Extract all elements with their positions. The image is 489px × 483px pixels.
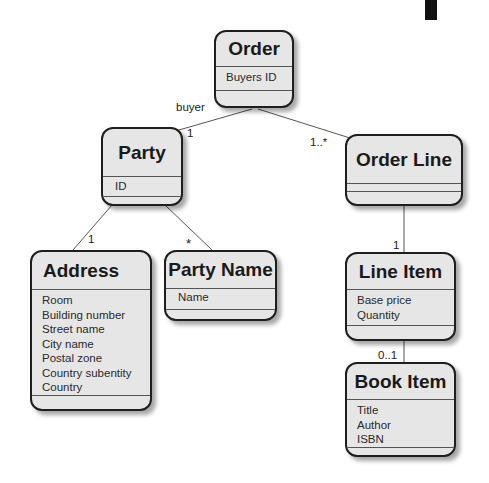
multiplicity-orderline-lineitem: 1 bbox=[393, 239, 399, 251]
operations-compartment bbox=[166, 310, 275, 321]
multiplicity-party-partyname: * bbox=[186, 236, 191, 251]
attribute-list bbox=[347, 184, 461, 192]
class-address[interactable]: Address Room Building number Street name… bbox=[30, 250, 152, 411]
attribute: Street name bbox=[42, 322, 150, 337]
class-order-line[interactable]: Order Line bbox=[345, 134, 463, 206]
attribute: Country bbox=[42, 380, 150, 395]
operations-compartment bbox=[347, 448, 454, 457]
multiplicity-party-address: 1 bbox=[88, 233, 94, 245]
operations-compartment bbox=[347, 326, 454, 341]
attribute: ISBN bbox=[357, 432, 454, 447]
multiplicity-order-orderline: 1..* bbox=[310, 136, 327, 148]
class-name: Party bbox=[103, 129, 181, 177]
attribute: Country subentity bbox=[42, 366, 150, 381]
operations-compartment bbox=[32, 396, 150, 411]
attribute: Postal zone bbox=[42, 351, 150, 366]
attribute: Room bbox=[42, 293, 150, 308]
class-name: Line Item bbox=[347, 254, 454, 290]
attribute-list: Base price Quantity bbox=[347, 290, 454, 326]
multiplicity-order-party: 1 bbox=[187, 127, 193, 139]
class-line-item[interactable]: Line Item Base price Quantity bbox=[345, 252, 456, 341]
attribute: Buyers ID bbox=[226, 70, 292, 85]
class-party-name[interactable]: Party Name Name bbox=[164, 250, 277, 321]
operations-compartment bbox=[216, 91, 292, 108]
attribute: Quantity bbox=[357, 308, 454, 323]
attribute-list: Name bbox=[166, 289, 275, 310]
attribute: Author bbox=[357, 418, 454, 433]
class-party[interactable]: Party ID bbox=[101, 127, 183, 206]
class-name: Order Line bbox=[347, 136, 461, 184]
class-book-item[interactable]: Book Item Title Author ISBN bbox=[345, 362, 456, 457]
attribute-list: Room Building number Street name City na… bbox=[32, 290, 150, 396]
role-label-buyer: buyer bbox=[176, 101, 205, 113]
attribute-list: ID bbox=[103, 177, 181, 197]
attribute: ID bbox=[115, 179, 181, 194]
assoc-order-orderline bbox=[258, 109, 350, 138]
attribute: Name bbox=[178, 290, 275, 305]
class-order[interactable]: Order Buyers ID bbox=[214, 30, 294, 108]
class-name: Book Item bbox=[347, 364, 454, 400]
attribute: Base price bbox=[357, 293, 454, 308]
attribute-list: Buyers ID bbox=[216, 67, 292, 91]
attribute: Title bbox=[357, 403, 454, 418]
class-name: Party Name bbox=[166, 252, 275, 289]
class-name: Order bbox=[216, 32, 292, 67]
attribute: City name bbox=[42, 337, 150, 352]
operations-compartment bbox=[347, 192, 461, 206]
attribute: Building number bbox=[42, 308, 150, 323]
multiplicity-lineitem-bookitem: 0..1 bbox=[378, 349, 397, 361]
attribute-list: Title Author ISBN bbox=[347, 400, 454, 448]
operations-compartment bbox=[103, 197, 181, 206]
class-name: Address bbox=[32, 252, 150, 290]
